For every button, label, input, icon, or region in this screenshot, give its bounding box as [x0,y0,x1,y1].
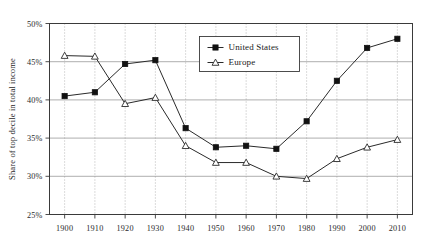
y-tick-label-25: 25% [27,211,43,220]
data-point-united-states-2000 [365,45,370,50]
data-point-united-states-1960 [244,143,249,148]
legend-marker-square-united-states [213,45,218,50]
chart-figure: Share of top decile in total income 25%3… [0,0,432,250]
y-tick-label-30: 30% [27,172,43,181]
data-point-united-states-1980 [304,119,309,124]
x-tick-label-1940: 1940 [177,224,194,233]
y-tick-label-50: 50% [27,20,43,29]
y-tick-label-45: 45% [27,58,43,67]
x-tick-label-1980: 1980 [298,224,315,233]
x-tick-label-1910: 1910 [86,224,103,233]
x-tick-label-1920: 1920 [117,224,134,233]
x-tick-label-1990: 1990 [328,224,345,233]
legend-label-united-states: United States [229,42,280,52]
x-tick-label-1960: 1960 [238,224,255,233]
x-tick-label-2010: 2010 [389,224,406,233]
x-tick-label-1970: 1970 [268,224,285,233]
x-tick-label-1900: 1900 [56,224,73,233]
data-point-united-states-1990 [334,78,339,83]
data-point-united-states-2010 [395,36,400,41]
x-tick-label-1950: 1950 [207,224,224,233]
x-tick-label-2000: 2000 [359,224,376,233]
data-point-united-states-1950 [213,145,218,150]
data-point-united-states-1900 [62,93,67,98]
chart-legend[interactable]: United StatesEurope [200,37,300,72]
income-share-line-chart: Share of top decile in total income 25%3… [0,0,432,250]
legend-label-europe: Europe [229,57,256,67]
data-point-united-states-1910 [92,90,97,95]
y-tick-label-40: 40% [27,96,43,105]
y-axis-title: Share of top decile in total income [7,58,17,180]
x-tick-label-1930: 1930 [147,224,164,233]
y-tick-label-35: 35% [27,134,43,143]
data-point-united-states-1930 [153,58,158,63]
y-axis-title-text: Share of top decile in total income [7,58,17,180]
data-point-united-states-1970 [274,146,279,151]
data-point-united-states-1920 [123,61,128,66]
data-point-united-states-1940 [183,126,188,131]
